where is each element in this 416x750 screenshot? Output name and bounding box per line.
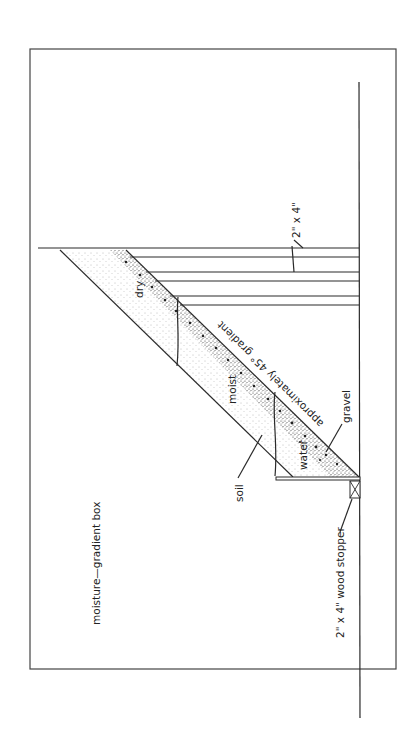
moist-label: moist bbox=[226, 375, 238, 404]
stopper-label: 2" x 4" wood stopper bbox=[334, 527, 346, 638]
base-board-line bbox=[359, 82, 360, 718]
bottom-board bbox=[276, 477, 360, 480]
gradient-base-line bbox=[126, 250, 359, 477]
stopper-leader-line bbox=[340, 499, 352, 532]
gravel-leader-line bbox=[326, 424, 342, 452]
gravel-band bbox=[110, 250, 359, 477]
wood-stopper bbox=[350, 481, 360, 498]
soil-leader-line bbox=[238, 435, 262, 478]
water-label: water bbox=[297, 439, 309, 470]
board-label: 2" x 4" bbox=[290, 202, 302, 238]
dry-label: dry bbox=[133, 281, 145, 298]
figure-title: moisture—gradient box bbox=[90, 502, 102, 625]
moisture-gradient-box-diagram: moisture—gradient box 2" x 4" wood stopp… bbox=[0, 0, 416, 750]
soil-label: soil bbox=[233, 484, 245, 502]
board-leader-tick bbox=[294, 240, 303, 248]
gravel-label: gravel bbox=[340, 390, 352, 423]
board-leader-line bbox=[292, 246, 294, 272]
